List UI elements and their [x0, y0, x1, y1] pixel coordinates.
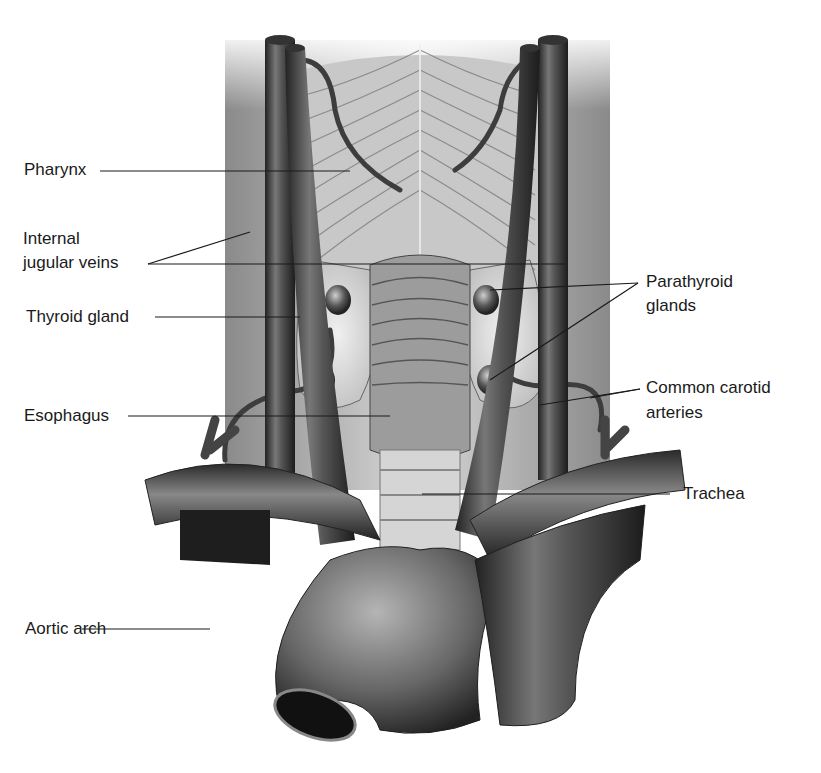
label-esophagus: Esophagus	[24, 405, 109, 427]
esophagus	[370, 255, 470, 460]
label-parathyroid-line2: glands	[646, 295, 696, 317]
label-internal-jugular-line1: Internal	[23, 228, 80, 250]
label-internal-jugular-line2: jugular veins	[23, 252, 118, 274]
trachea	[380, 450, 460, 550]
label-common-carotid-line1: Common carotid	[646, 377, 771, 399]
label-pharynx: Pharynx	[24, 159, 86, 181]
label-parathyroid-line1: Parathyroid	[646, 271, 733, 293]
label-aortic-arch: Aortic arch	[25, 618, 106, 640]
label-common-carotid-line2: arteries	[646, 402, 703, 424]
label-thyroid-gland: Thyroid gland	[26, 306, 129, 328]
label-trachea: Trachea	[683, 483, 745, 505]
